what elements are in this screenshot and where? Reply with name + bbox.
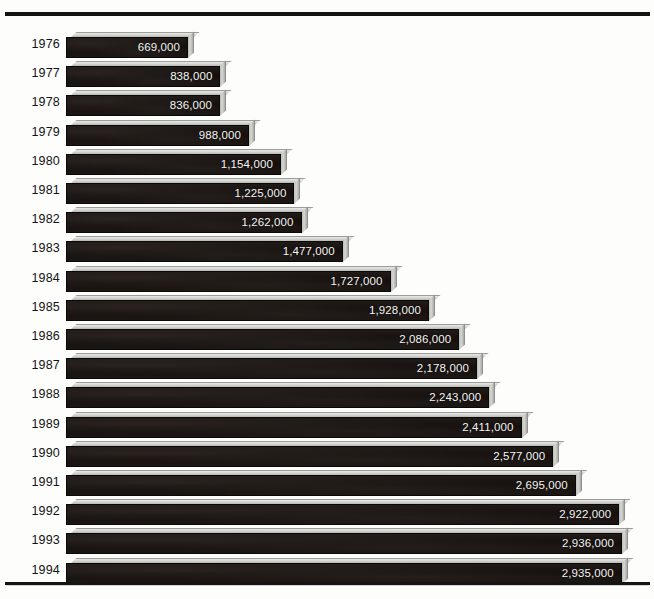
year-axis-label: 1978 [0, 88, 60, 117]
bar-front-face: 838,000 [66, 66, 220, 87]
bar-value-label: 2,577,000 [493, 447, 545, 466]
bar-side-face [459, 324, 465, 350]
bar-side-face [619, 499, 625, 525]
bar-front-face: 2,411,000 [66, 417, 522, 438]
bar-side-face [302, 207, 308, 233]
bar-row: 19912,695,000 [0, 468, 654, 497]
bar-value-label: 2,922,000 [559, 505, 611, 524]
year-axis-label: 1980 [0, 147, 60, 176]
bar-side-face [391, 265, 397, 291]
bar: 1,928,000 [66, 295, 435, 322]
bar-side-face [220, 61, 226, 87]
bar: 1,262,000 [66, 207, 308, 234]
bar-row: 1976669,000 [0, 30, 654, 59]
bar: 836,000 [66, 90, 226, 117]
bar: 2,695,000 [66, 470, 582, 497]
bar-front-face: 1,727,000 [66, 271, 391, 292]
bar-value-label: 1,262,000 [242, 213, 294, 232]
bar-value-label: 2,178,000 [417, 359, 469, 378]
bar: 1,154,000 [66, 149, 287, 176]
bar: 2,178,000 [66, 353, 483, 380]
bar: 1,477,000 [66, 236, 349, 263]
year-axis-label: 1977 [0, 59, 60, 88]
bar-row: 19831,477,000 [0, 234, 654, 263]
bar-side-face [622, 557, 628, 583]
bar: 2,411,000 [66, 412, 528, 439]
bar: 2,922,000 [66, 499, 625, 526]
bar-value-label: 988,000 [199, 126, 241, 145]
bar: 669,000 [66, 32, 194, 59]
bar-front-face: 2,577,000 [66, 446, 553, 467]
bar-side-face [522, 411, 528, 437]
bar: 988,000 [66, 120, 255, 147]
bar-row: 19811,225,000 [0, 176, 654, 205]
bar-front-face: 988,000 [66, 125, 249, 146]
bar-side-face [489, 382, 495, 408]
bar-row: 19841,727,000 [0, 264, 654, 293]
bar-value-label: 1,928,000 [369, 301, 421, 320]
bar: 2,577,000 [66, 441, 559, 468]
bar-front-face: 2,922,000 [66, 504, 619, 525]
bar-side-face [477, 353, 483, 379]
bar: 2,935,000 [66, 558, 628, 585]
bar-value-label: 2,935,000 [562, 564, 614, 583]
year-axis-label: 1981 [0, 176, 60, 205]
bar-front-face: 2,086,000 [66, 329, 459, 350]
bar-value-label: 669,000 [138, 38, 180, 57]
bar: 2,243,000 [66, 382, 495, 409]
bar-side-face [622, 528, 628, 554]
bar-value-label: 1,154,000 [221, 155, 273, 174]
bar-front-face: 2,243,000 [66, 387, 489, 408]
year-axis-label: 1993 [0, 526, 60, 555]
bar: 838,000 [66, 61, 226, 88]
bar-value-label: 2,695,000 [516, 476, 568, 495]
bar-value-label: 1,727,000 [331, 272, 383, 291]
year-axis-label: 1988 [0, 380, 60, 409]
bar-row: 1977838,000 [0, 59, 654, 88]
bar-row: 19801,154,000 [0, 147, 654, 176]
bottom-rule [5, 582, 650, 585]
bar-row: 19922,922,000 [0, 497, 654, 526]
year-axis-label: 1979 [0, 118, 60, 147]
year-axis-label: 1982 [0, 205, 60, 234]
bar-side-face [553, 440, 559, 466]
bar-side-face [576, 470, 582, 496]
bar-front-face: 1,225,000 [66, 183, 294, 204]
bar-side-face [281, 148, 287, 174]
bar-front-face: 2,936,000 [66, 533, 622, 554]
bar-front-face: 1,262,000 [66, 212, 302, 233]
bar-value-label: 2,086,000 [399, 330, 451, 349]
bar: 1,225,000 [66, 178, 300, 205]
year-axis-label: 1989 [0, 410, 60, 439]
bar-row: 1979988,000 [0, 118, 654, 147]
bar-front-face: 2,935,000 [66, 563, 622, 584]
bar: 2,936,000 [66, 528, 628, 555]
bar-row: 19902,577,000 [0, 439, 654, 468]
bar-side-face [429, 294, 435, 320]
bar-row: 19882,243,000 [0, 380, 654, 409]
bar-row: 19821,262,000 [0, 205, 654, 234]
year-axis-label: 1983 [0, 234, 60, 263]
bar-row: 19851,928,000 [0, 293, 654, 322]
bar-side-face [343, 236, 349, 262]
bar-row: 19932,936,000 [0, 526, 654, 555]
bar-front-face: 1,154,000 [66, 154, 281, 175]
bar: 1,727,000 [66, 266, 397, 293]
bar-value-label: 1,477,000 [283, 242, 335, 261]
bar-value-label: 836,000 [170, 96, 212, 115]
bar-front-face: 1,477,000 [66, 241, 343, 262]
bar-value-label: 2,411,000 [462, 418, 513, 437]
bar-front-face: 2,178,000 [66, 358, 477, 379]
horizontal-bar-chart: 1976669,0001977838,0001978836,0001979988… [0, 0, 654, 599]
bar-front-face: 669,000 [66, 37, 188, 58]
bar-side-face [220, 90, 226, 116]
bar-side-face [188, 32, 194, 58]
bar-value-label: 1,225,000 [234, 184, 286, 203]
bar-value-label: 838,000 [170, 67, 212, 86]
bar-row: 19892,411,000 [0, 410, 654, 439]
bar-value-label: 2,243,000 [429, 388, 481, 407]
bar-value-label: 2,936,000 [562, 534, 614, 553]
year-axis-label: 1976 [0, 30, 60, 59]
bar-row: 19872,178,000 [0, 351, 654, 380]
year-axis-label: 1991 [0, 468, 60, 497]
